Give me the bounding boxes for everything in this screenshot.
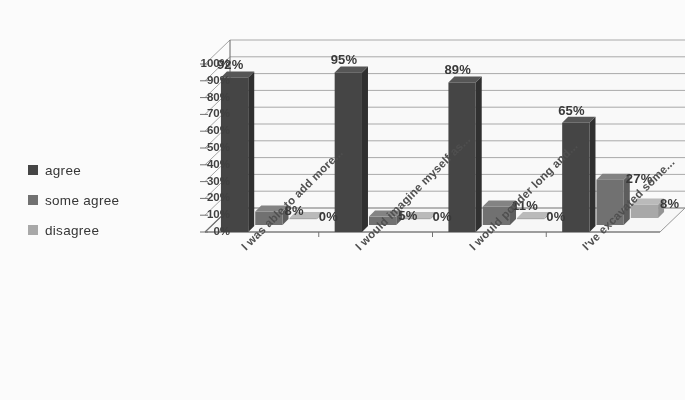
legend: agreesome agreedisagree	[28, 155, 178, 245]
data-label: 92%	[217, 57, 244, 72]
y-axis-tick-label: 60%	[207, 125, 230, 137]
bar-agree-0-side	[248, 71, 254, 232]
y-axis-tick-label: 80%	[207, 92, 230, 104]
legend-swatch-icon	[28, 195, 38, 205]
bar-agree-3-side	[589, 117, 595, 232]
bar-chart: 100%90%80%70%60%50%40%30%20%10%0% 0%8%92…	[0, 0, 685, 400]
y-axis-tick-label: 10%	[207, 209, 230, 221]
data-label: 89%	[444, 62, 471, 77]
data-label: 65%	[558, 103, 585, 118]
data-label: 0%	[546, 209, 565, 224]
legend-item-label: disagree	[45, 223, 99, 238]
bar-disagree-2	[517, 218, 544, 219]
legend-item-label: agree	[45, 163, 81, 178]
bar-agree-2-side	[476, 76, 482, 232]
y-axis-tick-label: 70%	[207, 108, 230, 120]
legend-swatch-icon	[28, 165, 38, 175]
data-label: 95%	[331, 52, 358, 67]
bar-disagree-3	[631, 205, 658, 218]
y-axis-tick-label: 50%	[207, 142, 230, 154]
legend-swatch-icon	[28, 225, 38, 235]
legend-item-label: some agree	[45, 193, 119, 208]
data-label: 8%	[660, 196, 679, 211]
legend-item-agree[interactable]: agree	[28, 155, 178, 185]
y-axis-tick-label: 20%	[207, 192, 230, 204]
bar-agree-3	[562, 123, 589, 232]
data-label: 0%	[319, 209, 338, 224]
y-axis-tick-label: 90%	[207, 75, 230, 87]
bar-agree-1-side	[362, 66, 368, 232]
y-axis-tick-label: 40%	[207, 159, 230, 171]
legend-item-disagree[interactable]: disagree	[28, 215, 178, 245]
y-axis-tick-label: 30%	[207, 176, 230, 188]
data-label: 0%	[433, 209, 452, 224]
bar-disagree-0	[290, 218, 317, 219]
y-axis-tick-label: 0%	[213, 226, 230, 238]
x-tick-marks	[319, 232, 547, 237]
legend-item-some-agree[interactable]: some agree	[28, 185, 178, 215]
